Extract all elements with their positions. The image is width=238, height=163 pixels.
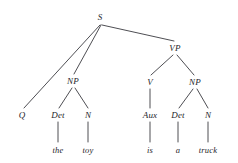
node-q: Q bbox=[19, 110, 26, 120]
npo-to-det bbox=[179, 89, 193, 108]
npo-to-n bbox=[197, 89, 208, 108]
node-s: S bbox=[98, 12, 103, 22]
s-to-vp bbox=[102, 25, 174, 41]
node-aux: Aux bbox=[143, 110, 158, 120]
word-the: the bbox=[53, 145, 64, 155]
s-to-q bbox=[24, 25, 100, 108]
node-vp: VP bbox=[169, 43, 180, 53]
word-a: a bbox=[176, 145, 180, 155]
vp-to-v bbox=[151, 55, 173, 75]
node-np-subject: NP bbox=[67, 76, 79, 86]
np-to-n bbox=[75, 88, 88, 108]
np-to-det bbox=[59, 88, 72, 108]
word-is: is bbox=[147, 145, 153, 155]
word-truck: truck bbox=[199, 145, 217, 155]
syntax-tree-figure: S Q NP Det N VP V NP Aux Det N the toy i… bbox=[0, 0, 238, 163]
node-det-a: Det bbox=[171, 110, 185, 120]
node-n-toy: N bbox=[85, 110, 91, 120]
node-v: V bbox=[147, 77, 153, 87]
tree-branches bbox=[0, 0, 238, 163]
node-det-the: Det bbox=[51, 110, 65, 120]
vp-to-np bbox=[177, 55, 194, 75]
node-np-object: NP bbox=[189, 77, 201, 87]
node-n-truck: N bbox=[205, 110, 211, 120]
word-toy: toy bbox=[83, 145, 94, 155]
